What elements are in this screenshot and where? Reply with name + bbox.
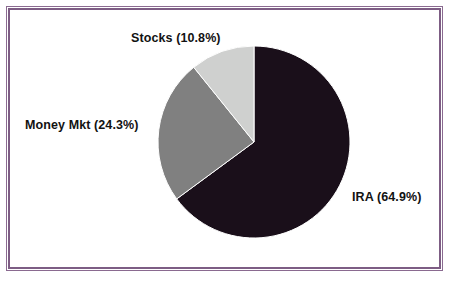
pie-svg xyxy=(0,0,455,283)
pie-label-stocks: Stocks (10.8%) xyxy=(131,31,221,45)
pie-slice-group xyxy=(158,46,350,238)
pie-plot-area xyxy=(0,0,455,283)
pie-label-ira: IRA (64.9%) xyxy=(352,190,421,204)
pie-chart-figure: Stocks (10.8%) Money Mkt (24.3%) IRA (64… xyxy=(0,0,455,283)
pie-label-money-mkt: Money Mkt (24.3%) xyxy=(25,118,139,132)
